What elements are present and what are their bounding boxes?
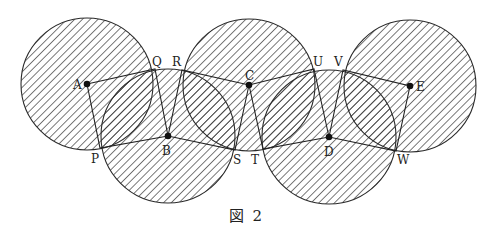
- label-D: D: [324, 145, 334, 159]
- center-dot-E: [407, 83, 414, 90]
- hatched-circles: [21, 18, 476, 204]
- label-U: U: [313, 55, 323, 69]
- label-S: S: [233, 153, 241, 167]
- center-dot-B: [165, 133, 172, 140]
- center-dot-A: [84, 81, 91, 88]
- label-R: R: [172, 55, 182, 69]
- label-W: W: [397, 153, 410, 167]
- label-P: P: [91, 152, 99, 166]
- label-B: B: [162, 144, 171, 158]
- label-A: A: [72, 78, 82, 92]
- label-E: E: [416, 80, 425, 94]
- label-C: C: [245, 69, 254, 83]
- label-V: V: [333, 55, 343, 69]
- center-dot-D: [326, 134, 333, 141]
- label-T: T: [251, 153, 259, 167]
- label-Q: Q: [152, 55, 162, 69]
- figure-caption: 図 2: [0, 204, 493, 225]
- overlapping-circles-diagram: A B C D E P Q R S T U V W: [0, 0, 493, 235]
